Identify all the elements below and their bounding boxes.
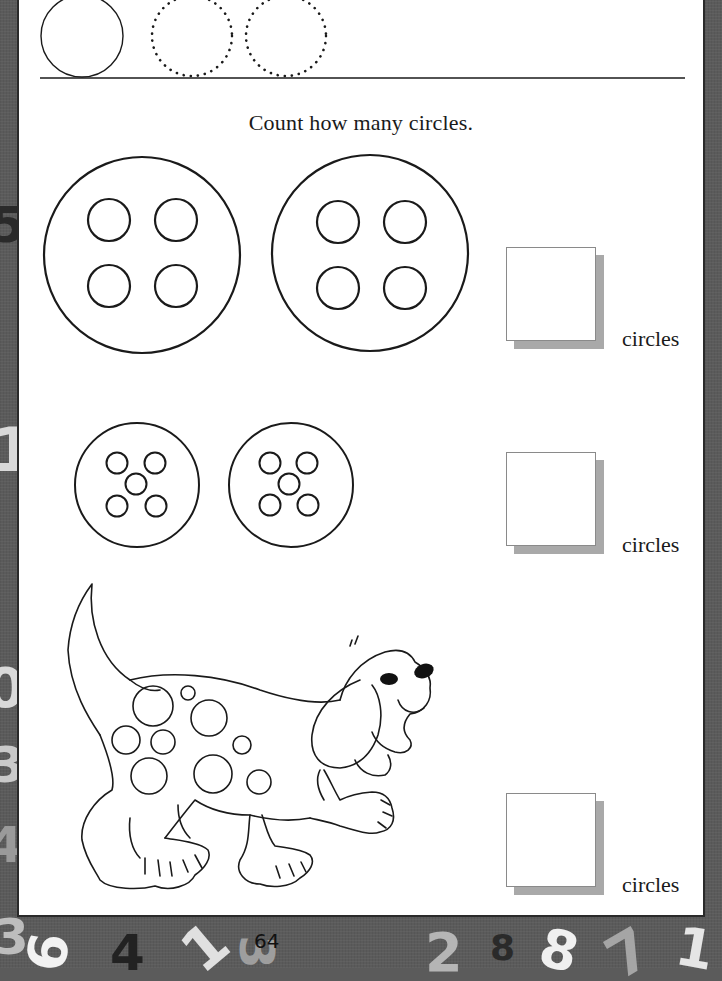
small-button (75, 423, 199, 547)
large-button (44, 157, 240, 353)
answer-box-dog-spots[interactable] (506, 793, 596, 887)
dog-eye (380, 673, 398, 685)
dog-spot (233, 736, 251, 754)
solid-circle-example (41, 0, 123, 77)
answer-unit-label: circles (622, 532, 679, 558)
button-hole (88, 265, 130, 307)
dotted-trace-circle[interactable] (152, 0, 232, 76)
dog-spot (133, 686, 173, 726)
button-hole (298, 495, 319, 516)
dog-spot (151, 730, 175, 754)
exercise-large-buttons (44, 155, 468, 353)
dotted-trace-circle[interactable] (246, 0, 326, 76)
dog-spot (112, 726, 140, 754)
button-hole (107, 496, 128, 517)
button-hole (107, 453, 128, 474)
large-button (272, 155, 468, 351)
button-hole (146, 496, 167, 517)
button-hole (279, 474, 300, 495)
dog-spot (247, 770, 271, 794)
answer-unit-label: circles (622, 872, 679, 898)
instruction-heading: Count how many circles. (0, 110, 722, 136)
button-hole (88, 199, 130, 241)
button-hole (155, 265, 197, 307)
page-number: 64 (254, 929, 279, 953)
button-hole (260, 453, 281, 474)
answer-box-small-buttons[interactable] (506, 452, 596, 546)
small-button (229, 423, 353, 547)
dog-spots (112, 686, 271, 794)
exercise-small-buttons (75, 423, 353, 547)
answer-box-large-buttons[interactable] (506, 247, 596, 341)
answer-unit-label: circles (622, 326, 679, 352)
button-hole (317, 201, 359, 243)
tracing-row (40, 0, 685, 78)
button-hole (384, 267, 426, 309)
dog-spot (181, 686, 195, 700)
dog-spot (194, 755, 232, 793)
dog-spot (191, 700, 227, 736)
button-hole (384, 201, 426, 243)
button-hole (155, 199, 197, 241)
button-hole (260, 495, 281, 516)
dog-spot (131, 758, 167, 794)
dog-nose (412, 661, 436, 681)
button-hole (126, 474, 147, 495)
button-hole (297, 453, 318, 474)
button-hole (145, 453, 166, 474)
button-hole (317, 267, 359, 309)
dog-illustration (68, 584, 430, 888)
exercise-spotted-dog (68, 584, 436, 888)
